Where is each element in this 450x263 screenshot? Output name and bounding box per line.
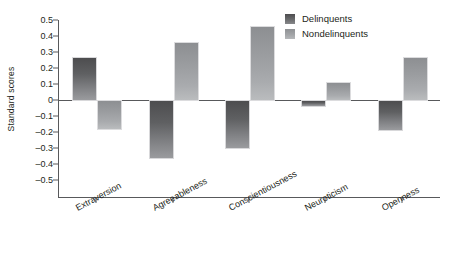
- bar-nondelinquent-openness: [403, 57, 428, 101]
- bar-chart-figure: Standard scores 0.50.40.30.20.10–0.1–0.2…: [0, 0, 450, 263]
- legend-item-nondelinquent[interactable]: Nondelinquents: [285, 28, 368, 39]
- legend-item-label: Nondelinquents: [302, 28, 368, 39]
- y-axis-tick-mark: [53, 116, 58, 117]
- y-axis-tick-mark: [53, 20, 58, 21]
- bar-nondelinquent-neuroticism: [326, 82, 351, 101]
- y-axis-tick-mark: [53, 100, 58, 101]
- chart-legend: DelinquentsNondelinquents: [285, 13, 368, 39]
- y-axis-tick-mark: [53, 68, 58, 69]
- plot-area: 0.50.40.30.20.10–0.1–0.2–0.3–0.4–0.5: [58, 20, 440, 197]
- y-axis-tick-mark: [53, 132, 58, 133]
- y-axis-tick-mark: [53, 148, 58, 149]
- legend-item-label: Delinquents: [302, 13, 352, 24]
- bar-delinquent-openness: [378, 100, 403, 131]
- bar-nondelinquent-conscientiousness: [250, 26, 275, 101]
- nondelinquent-swatch-icon: [285, 29, 295, 39]
- bar-delinquent-agreeableness: [149, 100, 174, 159]
- y-axis-tick-mark: [53, 180, 58, 181]
- y-axis-tick-mark: [53, 84, 58, 85]
- y-axis-tick-mark: [53, 36, 58, 37]
- y-axis-line: [58, 20, 59, 197]
- y-axis-title: Standard scores: [2, 0, 20, 197]
- delinquent-swatch-icon: [285, 14, 295, 24]
- y-axis-title-text: Standard scores: [6, 66, 16, 131]
- bar-delinquent-extraversion: [72, 57, 97, 101]
- y-axis-tick-mark: [53, 164, 58, 165]
- bar-delinquent-conscientiousness: [225, 100, 250, 149]
- bar-delinquent-neuroticism: [301, 100, 326, 107]
- bar-nondelinquent-extraversion: [97, 100, 122, 130]
- bar-nondelinquent-agreeableness: [174, 42, 199, 101]
- y-axis-tick-mark: [53, 52, 58, 53]
- legend-item-delinquent[interactable]: Delinquents: [285, 13, 368, 24]
